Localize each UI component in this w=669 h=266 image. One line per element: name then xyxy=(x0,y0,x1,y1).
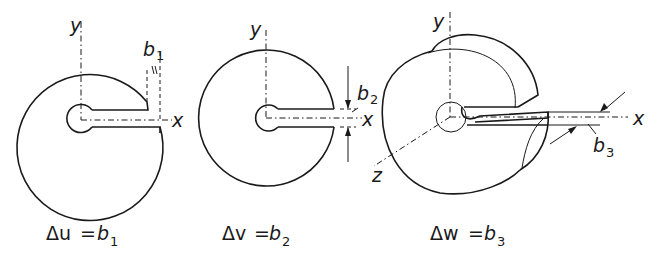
z-axis-label: z xyxy=(371,164,383,186)
caption-1: Δu = b 1 xyxy=(46,222,118,249)
burgers-subscript: 1 xyxy=(156,48,164,63)
x-axis-label: x xyxy=(632,107,645,129)
caption-rhs-subscript: 2 xyxy=(282,234,290,249)
caption-3: Δw = b 3 xyxy=(430,222,505,249)
burgers-label: b xyxy=(357,82,369,104)
caption-lhs: Δv xyxy=(222,222,246,244)
caption-rhs: b xyxy=(269,222,281,244)
caption-lhs: Δu xyxy=(46,222,71,244)
y-axis-label: y xyxy=(249,18,262,40)
burgers-subscript: 3 xyxy=(606,145,614,160)
caption-equals: = xyxy=(80,222,96,244)
caption-lhs: Δw xyxy=(430,222,459,244)
arrowhead-icon xyxy=(568,126,577,134)
cylinder-front-outline xyxy=(382,51,520,194)
burgers-label: b xyxy=(143,38,155,60)
sheared-face-edge xyxy=(520,112,548,170)
caption-rhs: b xyxy=(484,222,496,244)
x-axis-label: x xyxy=(171,109,184,131)
arrowhead-down-icon xyxy=(345,100,351,109)
b1-tick xyxy=(152,66,154,74)
caption-equals: = xyxy=(254,222,270,244)
caption-rhs: b xyxy=(97,222,109,244)
caption-2: Δv = b 2 xyxy=(222,222,290,249)
y-axis-label: y xyxy=(69,14,82,36)
caption-equals: = xyxy=(468,222,484,244)
arrowhead-up-icon xyxy=(345,127,351,136)
caption-rhs-subscript: 1 xyxy=(110,234,118,249)
front-face-edge-top xyxy=(428,49,515,108)
figure-2-edge-dislocation-v: y x b 2 xyxy=(199,18,379,186)
dislocation-diagram: y x b 1 y x b 2 xyxy=(0,0,669,266)
core-keyhole xyxy=(67,105,92,133)
caption-rhs-subscript: 3 xyxy=(497,234,505,249)
arrowhead-icon xyxy=(600,103,608,112)
figure-3-screw-dislocation-w: y x z b 3 xyxy=(371,10,645,194)
slot-upper-face xyxy=(92,102,148,110)
burgers-subscript: 2 xyxy=(370,92,378,107)
z-axis xyxy=(374,117,450,166)
figure-1-edge-dislocation-u: y x b 1 xyxy=(17,14,184,221)
cylinder-back-top xyxy=(432,35,538,107)
slot-inner-curve xyxy=(462,107,548,122)
b1-tick xyxy=(155,66,157,74)
x-axis-label: x xyxy=(361,108,374,130)
slot-lower-face xyxy=(92,127,160,133)
burgers-label: b xyxy=(593,134,605,156)
y-axis-label: y xyxy=(432,10,445,32)
cylinder-outline xyxy=(17,75,163,221)
